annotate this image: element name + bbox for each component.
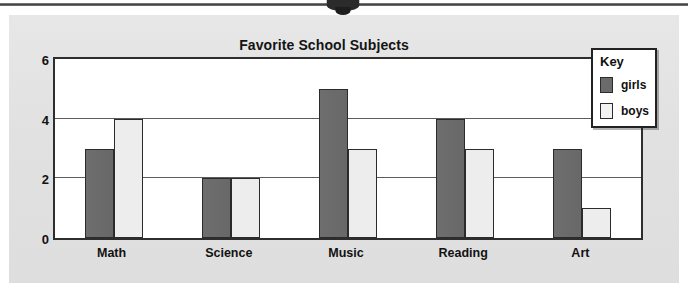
legend: Key girls boys — [591, 48, 657, 128]
y-tick-label-4: 4 — [27, 114, 49, 127]
y-axis-tick-labels: 0246 — [23, 57, 49, 240]
chart-title: Favorite School Subjects — [9, 37, 639, 53]
bar-music-boys — [348, 149, 377, 239]
x-tick-label-science: Science — [170, 246, 287, 260]
bar-science-boys — [231, 178, 260, 238]
bar-chart-figure: Favorite School Subjects 0246 MathScienc… — [9, 15, 679, 283]
scan-artifact-blob-icon — [327, 0, 360, 11]
bar-math-girls — [85, 149, 114, 239]
legend-title: Key — [600, 54, 624, 69]
scanned-page-panel: Favorite School Subjects 0246 MathScienc… — [9, 15, 679, 283]
bar-music-girls — [319, 89, 348, 238]
bar-art-boys — [582, 208, 611, 238]
bars-layer — [55, 59, 641, 238]
bar-reading-girls — [436, 119, 465, 238]
y-tick-label-2: 2 — [27, 173, 49, 186]
bar-science-girls — [202, 178, 231, 238]
plot-area — [53, 57, 643, 240]
x-tick-label-math: Math — [53, 246, 170, 260]
bar-math-boys — [114, 119, 143, 238]
x-tick-label-music: Music — [287, 246, 404, 260]
legend-swatch-girls-icon — [600, 77, 613, 93]
x-tick-label-art: Art — [522, 246, 639, 260]
bar-reading-boys — [465, 149, 494, 239]
legend-label-boys: boys — [621, 104, 649, 118]
y-tick-label-6: 6 — [27, 54, 49, 67]
x-tick-label-reading: Reading — [405, 246, 522, 260]
legend-swatch-boys-icon — [600, 103, 613, 119]
legend-label-girls: girls — [621, 78, 646, 92]
y-tick-label-0: 0 — [27, 233, 49, 246]
bar-art-girls — [553, 149, 582, 239]
x-axis-tick-labels: MathScienceMusicReadingArt — [53, 246, 643, 266]
